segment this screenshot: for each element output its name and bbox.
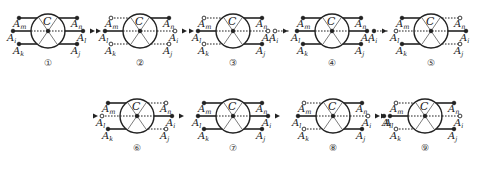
label-an: An bbox=[355, 103, 367, 116]
arrow-right-icon bbox=[179, 113, 184, 118]
label-an: An bbox=[354, 18, 366, 31]
arrow-right-icon bbox=[375, 113, 380, 118]
arrow-right-icon bbox=[283, 28, 288, 33]
diagram-9: CAmAkAlAnAjAi⑨ bbox=[381, 99, 463, 153]
center-node-icon bbox=[138, 29, 142, 33]
center-node-icon bbox=[231, 29, 235, 33]
diagram-number: ⑤ bbox=[427, 58, 435, 68]
diagram-7: CAmAkAlAnAjAi⑦ bbox=[191, 99, 280, 153]
center-label: C bbox=[135, 15, 144, 28]
label-an: An bbox=[453, 18, 465, 31]
label-aj: Aj bbox=[453, 45, 463, 58]
center-label: C bbox=[327, 15, 336, 28]
center-label: C bbox=[228, 15, 237, 28]
center-node-icon bbox=[330, 29, 334, 33]
center-label: C bbox=[43, 15, 52, 28]
label-ak: Ak bbox=[297, 130, 309, 143]
label-ak: Ak bbox=[101, 130, 113, 143]
center-node-icon bbox=[135, 114, 139, 118]
center-node-icon bbox=[331, 114, 335, 118]
diagram-number: ⑦ bbox=[229, 143, 237, 153]
center-node-icon bbox=[46, 29, 50, 33]
label-ak: Ak bbox=[104, 45, 116, 58]
label-am: Am bbox=[104, 18, 118, 31]
label-am: Am bbox=[297, 103, 311, 116]
label-an: An bbox=[159, 103, 171, 116]
label-aj: Aj bbox=[354, 45, 364, 58]
label-ak: Ak bbox=[197, 130, 209, 143]
center-label: C bbox=[420, 100, 429, 113]
center-label: C bbox=[132, 100, 141, 113]
center-node-icon bbox=[423, 114, 427, 118]
label-an: An bbox=[255, 103, 267, 116]
label-am: Am bbox=[296, 18, 310, 31]
center-node-icon bbox=[231, 114, 235, 118]
arrow-right-icon bbox=[182, 28, 187, 33]
diagram-canvas: CAmAkAiAnAjAl①CAmAkAlAnAjAi②CAmAkAlAnAjA… bbox=[0, 0, 482, 173]
arrow-right-icon bbox=[275, 113, 280, 118]
label-an: An bbox=[447, 103, 459, 116]
label-mid-left: Al bbox=[98, 32, 108, 45]
label-ak: Ak bbox=[296, 45, 308, 58]
label-am: Am bbox=[197, 103, 211, 116]
diagram-number: ⑥ bbox=[133, 143, 141, 153]
label-ak: Ak bbox=[197, 45, 209, 58]
diagram-1: CAmAkAiAnAjAl① bbox=[6, 14, 95, 68]
diagram-8: CAmAkAlAnAjAiAl⑧ bbox=[291, 99, 391, 153]
label-mid-left: Al bbox=[191, 32, 201, 45]
diagram-number: ④ bbox=[328, 58, 336, 68]
diagram-number: ③ bbox=[229, 58, 237, 68]
label-ak: Ak bbox=[389, 130, 401, 143]
label-aj: Aj bbox=[355, 130, 365, 143]
arrow-right-icon bbox=[90, 28, 95, 33]
label-mid-left: Al bbox=[389, 32, 399, 45]
diagram-3: CAmAkAlAnAjAi③ bbox=[189, 14, 271, 68]
label-aj: Aj bbox=[70, 45, 80, 58]
diagram-number: ⑨ bbox=[421, 143, 429, 153]
label-an: An bbox=[162, 18, 174, 31]
label-mid-left: Ai bbox=[6, 32, 16, 45]
diagram-5: CAmAkAlAnAjAiAi⑤ bbox=[367, 14, 469, 68]
label-an: An bbox=[255, 18, 267, 31]
diagram-4: CAmAkAlAnAjAiAi④ bbox=[268, 14, 370, 68]
label-aj: Aj bbox=[162, 45, 172, 58]
label-ak: Ak bbox=[395, 45, 407, 58]
label-mid-left: Al bbox=[291, 117, 301, 130]
arrow-right-icon bbox=[382, 28, 387, 33]
label-am: Am bbox=[12, 18, 26, 31]
center-node-icon bbox=[429, 29, 433, 33]
label-aj: Aj bbox=[159, 130, 169, 143]
label-am: Am bbox=[197, 18, 211, 31]
center-label: C bbox=[328, 100, 337, 113]
label-mid-left: Al bbox=[95, 117, 105, 130]
diagram-6: CAmAkAlAnAjAi⑥ bbox=[93, 99, 184, 153]
label-mid-left: Al bbox=[383, 117, 393, 130]
label-an: An bbox=[70, 18, 82, 31]
label-aj: Aj bbox=[447, 130, 457, 143]
label-mid-left: Al bbox=[290, 32, 300, 45]
center-label: C bbox=[228, 100, 237, 113]
label-am: Am bbox=[389, 103, 403, 116]
label-mid-left: Al bbox=[191, 117, 201, 130]
diagram-number: ① bbox=[44, 58, 52, 68]
center-label: C bbox=[426, 15, 435, 28]
label-aj: Aj bbox=[255, 130, 265, 143]
diagram-2: CAmAkAlAnAjAi② bbox=[96, 14, 187, 68]
label-ak: Ak bbox=[12, 45, 24, 58]
diagram-number: ⑧ bbox=[329, 143, 337, 153]
label-aj: Aj bbox=[255, 45, 265, 58]
diagram-number: ② bbox=[136, 58, 144, 68]
